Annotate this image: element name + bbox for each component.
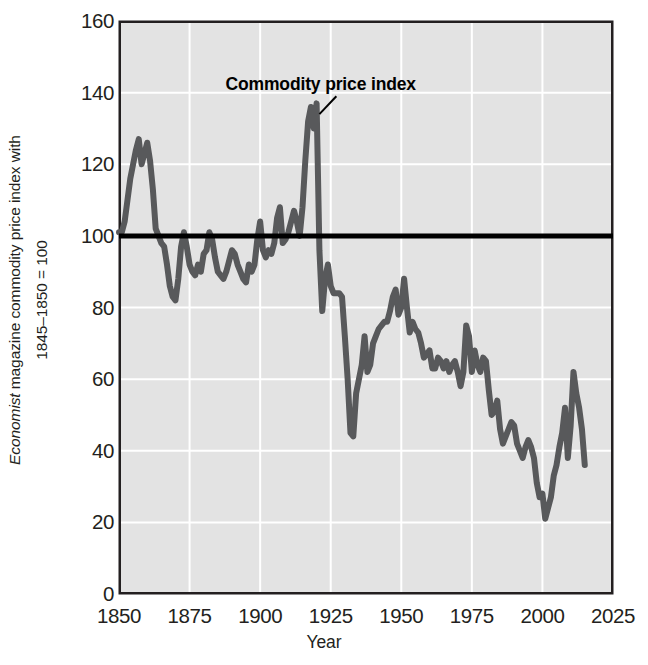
x-tick-label: 1900 — [238, 604, 282, 628]
x-axis-title: Year — [0, 632, 648, 653]
x-tick-label: 1975 — [450, 604, 494, 628]
x-tick-label: 1950 — [379, 604, 423, 628]
x-axis-ticks: 18501875190019251950197520002025 — [0, 0, 648, 665]
x-tick-label: 1875 — [168, 604, 212, 628]
x-tick-label: 1850 — [97, 604, 141, 628]
chart-figure: Economist magazine commodity price index… — [0, 0, 648, 665]
x-tick-label: 1925 — [309, 604, 353, 628]
x-tick-label: 2025 — [591, 604, 635, 628]
x-tick-label: 2000 — [520, 604, 564, 628]
